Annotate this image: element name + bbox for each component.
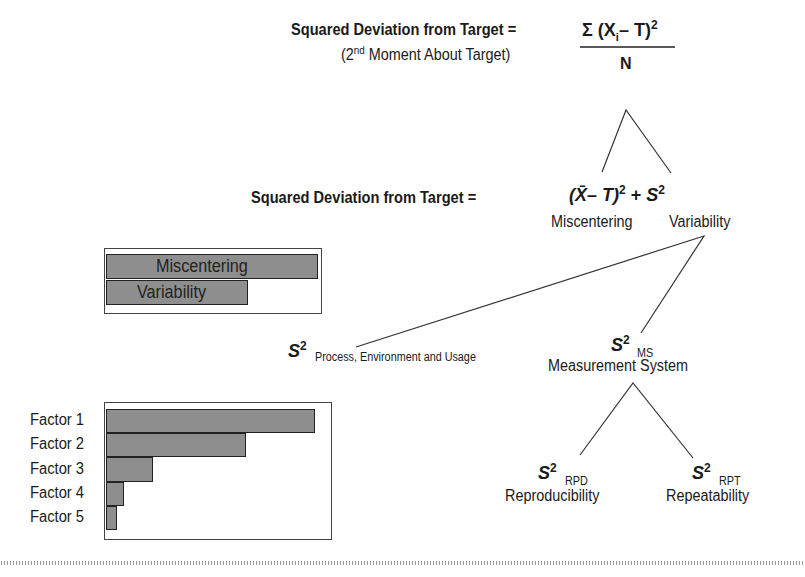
process-subscript: Process, Environment and Usage [315,350,476,364]
top-formula-denominator: N [620,55,632,73]
repeatability-caption: Repeatability [666,487,749,505]
factor-4-bar [106,482,124,506]
reproducibility-caption: Reproducibility [505,487,599,505]
factor-3-bar [106,457,153,482]
moment-note: (2nd Moment About Target) [341,44,510,64]
factor-5-bar [106,506,117,530]
rpd-node: S2 RPD [538,463,591,484]
bottom-divider [0,561,805,565]
ms-node: S2 MS [611,335,655,356]
factor-5-label: Factor 5 [30,508,84,526]
variability-bar-label: Variability [137,282,206,303]
top-formula-label: Squared Deviation from Target = [291,20,516,40]
s-squared-symbol: S2 [288,341,307,361]
factor-1-label: Factor 1 [30,411,84,429]
factor-3-label: Factor 3 [30,460,84,478]
factor-2-bar [106,433,246,457]
top-formula-numerator: Σ (Xi– T)2 [582,18,658,43]
factor-1-bar [106,409,315,433]
second-formula-terms: (X̄– T)2 + S2 [569,183,665,206]
process-node: S2 Process, Environment and Usage [288,341,494,362]
variability-caption: Variability [669,213,730,231]
measurement-system-caption: Measurement System [548,357,688,375]
factor-4-label: Factor 4 [30,484,84,502]
rpt-node: S2 RPT [692,463,743,484]
rpt-subscript: RPT [719,474,741,488]
miscentering-bar-label: Miscentering [156,256,248,277]
rpd-subscript: RPD [565,474,588,488]
second-formula-label: Squared Deviation from Target = [251,188,476,208]
factor-2-label: Factor 2 [30,435,84,453]
miscentering-caption: Miscentering [551,213,633,231]
